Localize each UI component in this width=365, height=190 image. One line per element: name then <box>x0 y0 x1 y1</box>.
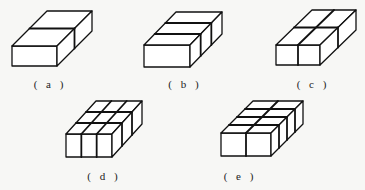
label-c: ( c ) <box>297 78 330 90</box>
cuboid-b <box>144 12 222 67</box>
cuboid-d <box>66 101 142 157</box>
label-e: ( e ) <box>224 170 257 182</box>
cuboid-e <box>221 101 303 156</box>
cuboid-c <box>276 10 356 65</box>
label-a: ( a ) <box>34 78 67 90</box>
label-d: ( d ) <box>87 170 120 182</box>
label-b: ( b ) <box>168 78 201 90</box>
cuboid-diagrams <box>0 0 365 190</box>
cuboid-a <box>12 11 92 66</box>
